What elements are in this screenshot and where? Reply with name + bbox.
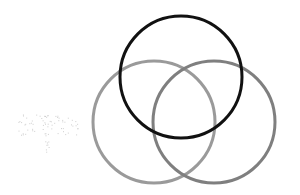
venn-svg bbox=[0, 0, 300, 195]
venn-diagram bbox=[0, 0, 300, 195]
top-circle bbox=[120, 16, 242, 138]
background-smudge bbox=[18, 115, 78, 153]
